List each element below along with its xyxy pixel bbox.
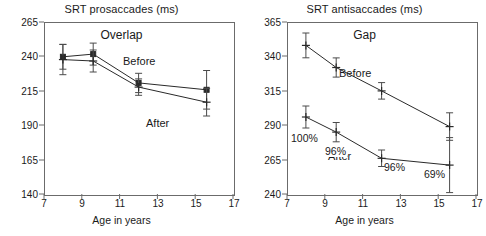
series-before-antisaccades (302, 33, 454, 140)
panel-antisaccades: SRT antisaccades (ms) Gap 365 340 315 29… (243, 0, 486, 236)
panel-prosaccades: SRT prosaccades (ms) Overlap 265 240 215… (0, 0, 243, 236)
plot-canvas-prosaccades (0, 0, 243, 236)
tick-marks (39, 22, 233, 199)
figure-root: SRT prosaccades (ms) Overlap 265 240 215… (0, 0, 486, 236)
tick-marks (282, 22, 476, 199)
series-after-antisaccades (302, 106, 454, 193)
series-before-prosaccades (59, 43, 210, 109)
plot-canvas-antisaccades (243, 0, 486, 236)
